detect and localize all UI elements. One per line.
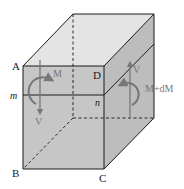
label-moment-left: M	[53, 68, 62, 79]
label-m: m	[10, 90, 17, 101]
label-moment-right: M+dM	[145, 83, 174, 94]
label-C: C	[99, 172, 106, 184]
label-n: n	[95, 97, 100, 108]
beam-element-diagram: A D B C m n M V V M+dM	[0, 0, 184, 189]
label-D: D	[93, 69, 101, 81]
label-B: B	[12, 167, 19, 179]
label-A: A	[12, 60, 20, 72]
label-shear-right: V	[133, 64, 141, 75]
label-shear-left: V	[35, 116, 43, 127]
